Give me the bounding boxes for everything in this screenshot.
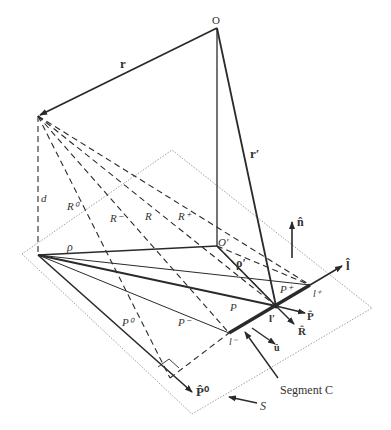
S-pointer (229, 397, 257, 403)
r-prime-vector (217, 28, 276, 306)
r-vector (40, 28, 217, 115)
distance-lines (38, 116, 310, 378)
l-prime-point (274, 304, 279, 309)
label-P0: P⁰ (121, 316, 135, 328)
l-hat-vector (310, 266, 342, 285)
label-O-prime: O′ (218, 236, 229, 248)
label-P-hat: P̂ (307, 310, 314, 322)
label-P-plus: P⁺ (279, 283, 294, 295)
P0-foot-to-l-minus (170, 333, 229, 378)
P0-hat-vector (38, 255, 192, 392)
label-R-minus: R⁻ (109, 212, 124, 224)
label-l-hat: l̂ (345, 258, 351, 273)
segment-C-pointer (245, 332, 278, 378)
label-R-plus: R⁺ (177, 210, 192, 222)
label-l-prime: l′ (269, 312, 275, 324)
O-prime-to-l-plus (217, 246, 310, 285)
label-R-hat: R̂ (298, 325, 307, 337)
label-O: O (212, 14, 220, 26)
label-r-prime: r′ (250, 146, 259, 161)
rho-vector (38, 246, 217, 255)
label-l-minus: l⁻ (229, 336, 238, 347)
label-P: P (229, 301, 237, 313)
label-P0-hat: P̂⁰ (196, 384, 210, 399)
label-n-hat: n̂ (297, 215, 304, 229)
label-d: d (41, 192, 47, 204)
R-minus-line (38, 116, 229, 333)
R0-line (38, 116, 170, 378)
label-R: R (144, 210, 152, 222)
u-hat-vector (252, 328, 275, 344)
label-l-plus: l⁺ (313, 288, 322, 299)
segment-geometry-diagram: O r r′ d R⁰ R⁻ R R⁺ ρ O′ ρ′ n̂ l̂ P⁺ l⁺ … (0, 0, 391, 430)
label-u-hat: û (274, 342, 280, 353)
P-minus-line (38, 255, 229, 333)
label-segment-C: Segment C (280, 383, 333, 397)
label-S: S (260, 399, 266, 413)
label-r: r (120, 56, 126, 71)
label-R0: R⁰ (66, 200, 80, 212)
label-rho-prime: ρ′ (236, 256, 246, 270)
label-P-minus: P⁻ (177, 316, 192, 328)
label-rho: ρ (66, 240, 73, 254)
